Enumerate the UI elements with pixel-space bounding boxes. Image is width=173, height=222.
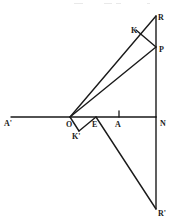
- point-label-r-prime: R': [158, 210, 166, 218]
- point-label-k: K: [131, 27, 137, 35]
- geometry-figure: A' O K' E A N K P R R': [0, 0, 173, 222]
- point-label-k-prime: K': [72, 133, 80, 141]
- figure-lines: [0, 0, 173, 222]
- line-e-to-rprime: [96, 117, 156, 209]
- point-label-a: A: [115, 121, 121, 129]
- point-label-n: N: [160, 120, 166, 128]
- point-label-a-prime: A': [4, 120, 12, 128]
- point-label-p: P: [159, 46, 164, 54]
- line-o-to-p: [70, 47, 156, 117]
- point-label-e: E: [92, 121, 97, 129]
- point-label-o: O: [66, 121, 72, 129]
- line-o-to-r: [70, 16, 156, 117]
- point-label-r: R: [158, 14, 164, 22]
- line-k-to-p: [136, 30, 156, 47]
